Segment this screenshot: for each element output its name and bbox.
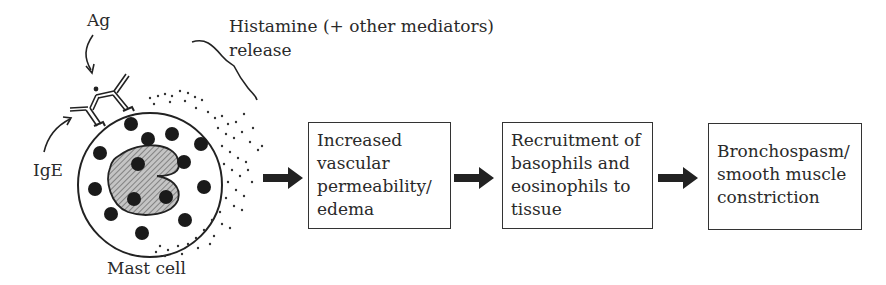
ag-arrow [86,35,93,70]
arrow-step2-to-step3 [658,167,698,189]
mast-cell-label: Mast cell [107,258,186,278]
step-text: Increased [317,129,442,152]
ige-label: IgE [33,160,63,180]
step-text: vascular [317,152,442,175]
step-box-recruitment: Recruitment of basophils and eosinophils… [502,122,653,229]
step-text: smooth muscle [717,163,853,186]
step-box-vascular-permeability: Increased vascular permeability/ edema [308,122,451,229]
mast-cell [78,113,222,257]
step-text: basophils and [511,152,644,175]
nucleus [108,145,179,215]
step-text: tissue [511,198,644,221]
step-text: eosinophils to [511,175,644,198]
step-text: permeability/ [317,175,442,198]
release-label-line1: Histamine (+ other mediators) [229,16,494,36]
step-text: constriction [717,186,853,209]
release-label-line2: release [229,40,292,60]
arrow-cell-to-step1 [263,167,303,189]
step-text: Bronchospasm/ [717,140,853,163]
step-box-bronchospasm: Bronchospasm/ smooth muscle constriction [708,123,862,230]
step-text: edema [317,198,442,221]
step-text: Recruitment of [511,129,644,152]
antigen-label: Ag [87,10,110,30]
arrow-step1-to-step2 [454,167,494,189]
ige-arrow [44,119,70,152]
